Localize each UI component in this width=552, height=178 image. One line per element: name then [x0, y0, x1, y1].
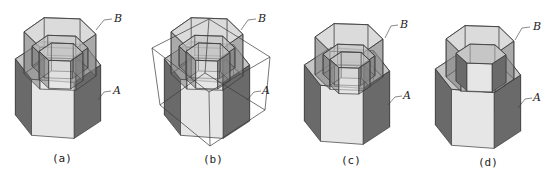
figure-a: [15, 18, 112, 139]
prism-face-d-inner-ring-1: [467, 63, 492, 92]
prism-face-d-A-lower-outer: [452, 89, 495, 148]
leader-line-A-c: [388, 96, 402, 105]
figure-b: [152, 18, 270, 146]
bounding-cube-edge-b: [152, 48, 160, 105]
label-A-b: A: [262, 84, 270, 97]
caption-b: (b): [203, 153, 223, 166]
leader-line-B-c: [385, 25, 398, 38]
prism-face-c-inner-ring-2: [339, 68, 359, 95]
label-A-d: A: [533, 91, 541, 104]
figure-d: [435, 26, 532, 149]
label-B-a: B: [114, 12, 122, 25]
figure-c: [304, 24, 402, 145]
leader-line-B-b: [241, 19, 256, 30]
label-A-c: A: [403, 89, 411, 102]
label-B-d: B: [533, 20, 541, 33]
leader-line-B-d: [515, 27, 530, 40]
leader-line-B-a: [96, 19, 112, 30]
caption-c: (c): [341, 154, 361, 167]
hexagonal-prism-diagram: [0, 0, 552, 178]
label-B-b: B: [258, 12, 266, 25]
caption-a: (a): [52, 152, 72, 165]
caption-d: (d): [478, 156, 498, 169]
label-B-c: B: [400, 18, 408, 31]
prism-face-a-inner-ring-2: [49, 60, 71, 89]
label-A-a: A: [113, 84, 121, 97]
